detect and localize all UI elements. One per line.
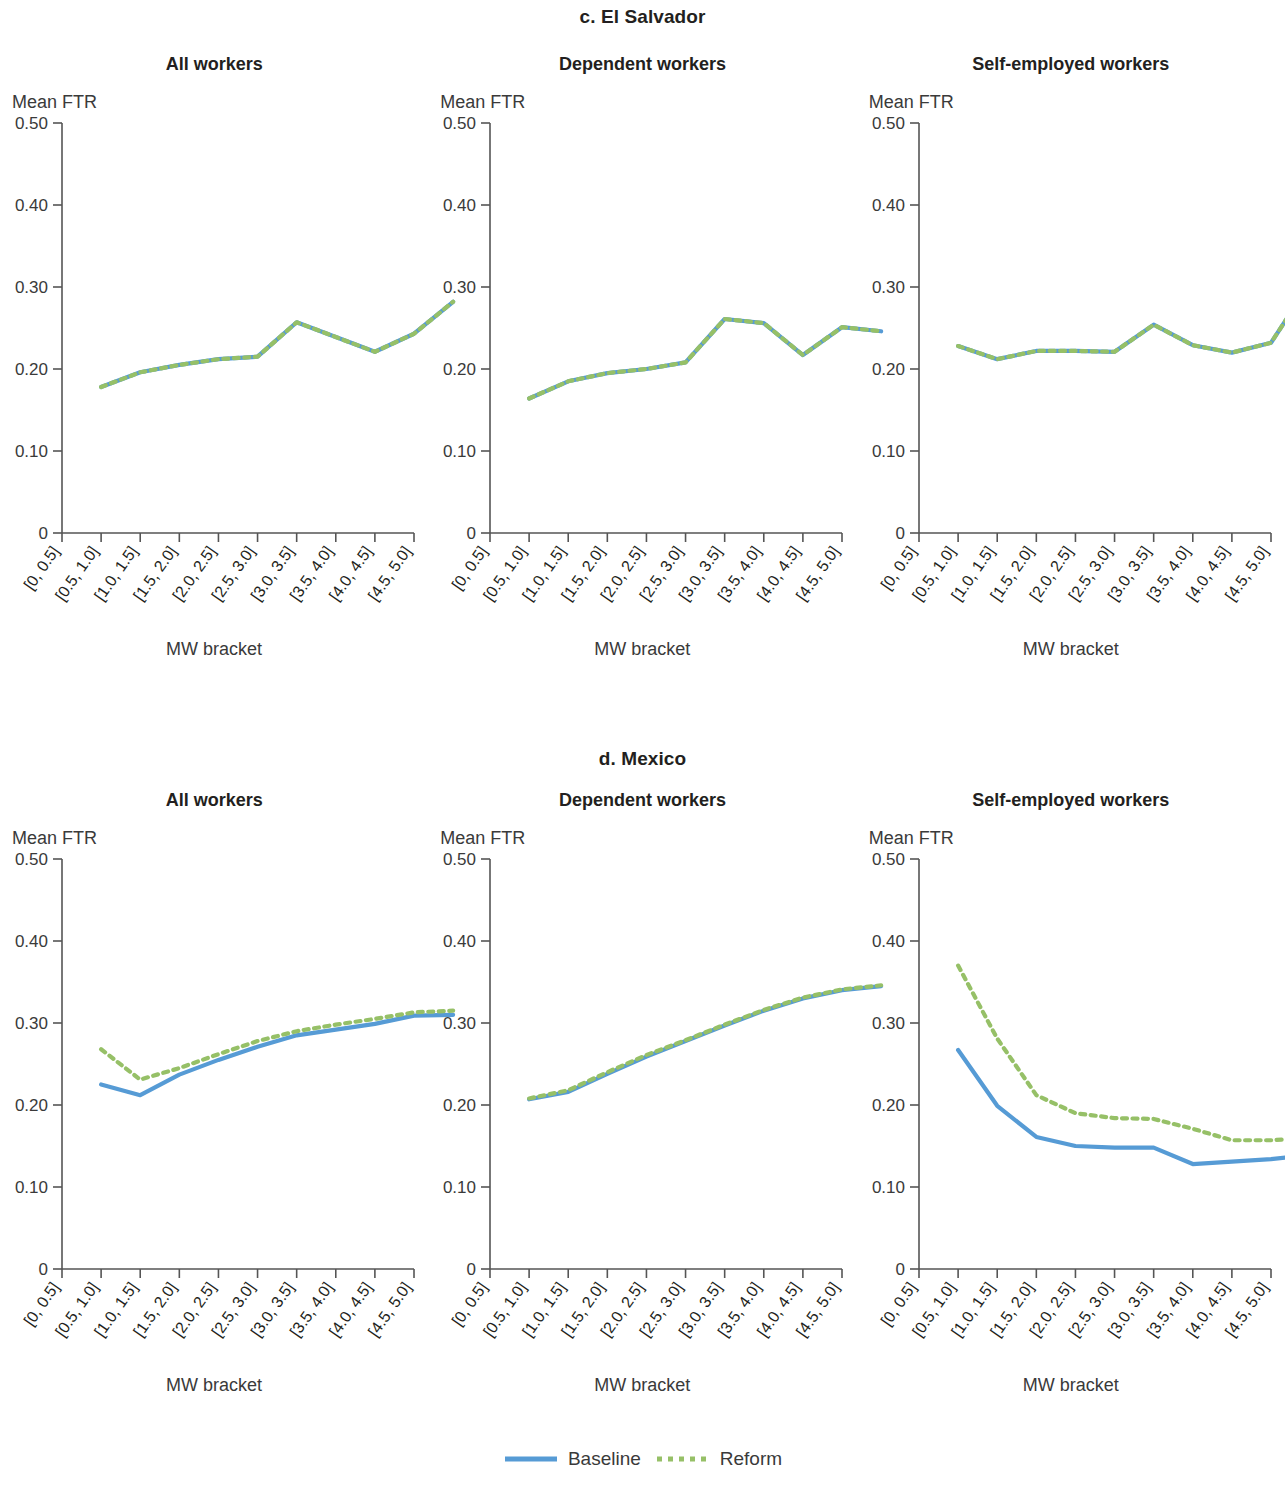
- y-tick-label: 0.40: [15, 932, 48, 951]
- chart-subtitle-mexico-all-workers: All workers: [0, 790, 428, 811]
- y-tick-label: 0.30: [443, 1014, 476, 1033]
- legend-item-baseline: Baseline: [503, 1448, 641, 1470]
- subtitle-row-el-salvador: All workers Dependent workers Self-emplo…: [0, 54, 1285, 75]
- plot-svg-el-salvador-all-workers: 00.100.200.300.400.50[0, 0.5][0.5, 1.0][…: [0, 113, 428, 633]
- x-tick-label: [0, 0.5]: [449, 543, 491, 593]
- y-axis-title: Mean FTR: [12, 92, 428, 113]
- x-tick-label: [0, 0.5]: [877, 543, 919, 593]
- y-tick-label: 0: [467, 524, 476, 543]
- y-tick-label: 0: [895, 524, 904, 543]
- x-axis-title: MW bracket: [857, 1375, 1285, 1396]
- chart-el-salvador-dependent-workers: Mean FTR 00.100.200.300.400.50[0, 0.5][0…: [428, 92, 856, 660]
- y-tick-label: 0: [895, 1260, 904, 1279]
- x-axis-title: MW bracket: [428, 639, 856, 660]
- panel-title-el-salvador: c. El Salvador: [0, 6, 1285, 28]
- legend-label-baseline: Baseline: [568, 1448, 641, 1470]
- y-tick-label: 0.40: [872, 932, 905, 951]
- y-tick-label: 0.20: [443, 360, 476, 379]
- chart-el-salvador-all-workers: Mean FTR 00.100.200.300.400.50[0, 0.5][0…: [0, 92, 428, 660]
- series-line-reform: [958, 283, 1285, 359]
- chart-subtitle-el-salvador-dependent-workers: Dependent workers: [428, 54, 856, 75]
- y-tick-label: 0.20: [15, 360, 48, 379]
- y-axis-title: Mean FTR: [12, 828, 428, 849]
- y-axis-title: Mean FTR: [869, 828, 1285, 849]
- x-axis-title: MW bracket: [0, 1375, 428, 1396]
- chart-subtitle-el-salvador-self-employed-workers: Self-employed workers: [857, 54, 1285, 75]
- y-tick-label: 0.30: [872, 1014, 905, 1033]
- legend-swatch-reform-line: [655, 1452, 711, 1466]
- series-line-reform: [529, 319, 881, 399]
- y-axis-title: Mean FTR: [440, 828, 856, 849]
- y-tick-label: 0.50: [443, 114, 476, 133]
- y-tick-label: 0.10: [443, 442, 476, 461]
- y-tick-label: 0.50: [15, 114, 48, 133]
- y-tick-label: 0.20: [15, 1096, 48, 1115]
- series-line-baseline: [958, 1050, 1285, 1164]
- x-axis-title: MW bracket: [428, 1375, 856, 1396]
- plot-svg-el-salvador-self-employed-workers: 00.100.200.300.400.50[0, 0.5][0.5, 1.0][…: [857, 113, 1285, 633]
- y-tick-label: 0.30: [15, 278, 48, 297]
- y-tick-label: 0.50: [443, 850, 476, 869]
- y-tick-label: 0: [467, 1260, 476, 1279]
- x-tick-label: [0, 0.5]: [20, 543, 62, 593]
- y-tick-label: 0: [39, 1260, 48, 1279]
- y-tick-label: 0.50: [872, 850, 905, 869]
- y-tick-label: 0.20: [443, 1096, 476, 1115]
- y-tick-label: 0.50: [872, 114, 905, 133]
- x-tick-label: [0, 0.5]: [449, 1279, 491, 1329]
- y-tick-label: 0.10: [872, 1178, 905, 1197]
- chart-subtitle-mexico-dependent-workers: Dependent workers: [428, 790, 856, 811]
- y-tick-label: 0.10: [443, 1178, 476, 1197]
- y-tick-label: 0.30: [872, 278, 905, 297]
- y-tick-label: 0.40: [443, 196, 476, 215]
- legend-label-reform: Reform: [720, 1448, 782, 1470]
- chart-subtitle-mexico-self-employed-workers: Self-employed workers: [857, 790, 1285, 811]
- panel-title-mexico: d. Mexico: [0, 748, 1285, 770]
- series-line-reform: [101, 302, 453, 387]
- figure-legend: Baseline Reform: [0, 1448, 1285, 1470]
- legend-swatch-baseline-line: [503, 1452, 559, 1466]
- x-axis-title: MW bracket: [0, 639, 428, 660]
- chart-mexico-self-employed-workers: Mean FTR 00.100.200.300.400.50[0, 0.5][0…: [857, 828, 1285, 1396]
- chart-mexico-dependent-workers: Mean FTR 00.100.200.300.400.50[0, 0.5][0…: [428, 828, 856, 1396]
- legend-item-reform: Reform: [655, 1448, 782, 1470]
- y-tick-label: 0.20: [872, 1096, 905, 1115]
- y-tick-label: 0.40: [872, 196, 905, 215]
- series-line-baseline: [101, 1015, 453, 1095]
- plot-svg-el-salvador-dependent-workers: 00.100.200.300.400.50[0, 0.5][0.5, 1.0][…: [428, 113, 856, 633]
- charts-row-mexico: Mean FTR 00.100.200.300.400.50[0, 0.5][0…: [0, 828, 1285, 1396]
- subtitle-row-mexico: All workers Dependent workers Self-emplo…: [0, 790, 1285, 811]
- y-axis-title: Mean FTR: [440, 92, 856, 113]
- series-line-reform: [101, 1011, 453, 1080]
- y-axis-title: Mean FTR: [869, 92, 1285, 113]
- series-line-reform: [529, 985, 881, 1098]
- y-tick-label: 0.30: [15, 1014, 48, 1033]
- chart-el-salvador-self-employed-workers: Mean FTR 00.100.200.300.400.50[0, 0.5][0…: [857, 92, 1285, 660]
- y-tick-label: 0.10: [15, 442, 48, 461]
- plot-svg-mexico-all-workers: 00.100.200.300.400.50[0, 0.5][0.5, 1.0][…: [0, 849, 428, 1369]
- y-tick-label: 0.30: [443, 278, 476, 297]
- chart-subtitle-el-salvador-all-workers: All workers: [0, 54, 428, 75]
- y-tick-label: 0.10: [15, 1178, 48, 1197]
- y-tick-label: 0: [39, 524, 48, 543]
- y-tick-label: 0.20: [872, 360, 905, 379]
- y-tick-label: 0.40: [15, 196, 48, 215]
- plot-svg-mexico-self-employed-workers: 00.100.200.300.400.50[0, 0.5][0.5, 1.0][…: [857, 849, 1285, 1369]
- x-axis-title: MW bracket: [857, 639, 1285, 660]
- x-tick-label: [0, 0.5]: [877, 1279, 919, 1329]
- chart-mexico-all-workers: Mean FTR 00.100.200.300.400.50[0, 0.5][0…: [0, 828, 428, 1396]
- y-tick-label: 0.10: [872, 442, 905, 461]
- x-tick-label: [0, 0.5]: [20, 1279, 62, 1329]
- charts-row-el-salvador: Mean FTR 00.100.200.300.400.50[0, 0.5][0…: [0, 92, 1285, 660]
- plot-svg-mexico-dependent-workers: 00.100.200.300.400.50[0, 0.5][0.5, 1.0][…: [428, 849, 856, 1369]
- series-line-baseline: [529, 319, 881, 399]
- y-tick-label: 0.40: [443, 932, 476, 951]
- series-line-baseline: [101, 302, 453, 387]
- y-tick-label: 0.50: [15, 850, 48, 869]
